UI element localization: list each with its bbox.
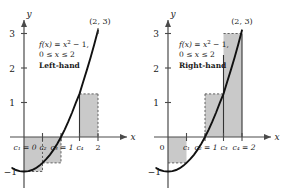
x-tick-label-c1: c₁ = 0 xyxy=(13,143,36,152)
y-axis-label: y xyxy=(25,9,32,19)
x-tick-label-c2: c₂ xyxy=(39,143,46,152)
y-tick-label-3: 3 xyxy=(153,29,159,39)
y-tick-label-2: 2 xyxy=(153,64,159,74)
x-tick-label-c3: c₃ xyxy=(220,143,227,152)
y-tick-label-2: 2 xyxy=(9,64,15,74)
y-axis-arrow xyxy=(21,20,27,27)
function-caption-line3: Left-hand xyxy=(39,61,81,70)
function-caption-line2: 0 ≤ x ≤ 2 xyxy=(39,50,75,59)
y-axis-arrow xyxy=(165,20,171,27)
x-tick-label-c4: c₄ xyxy=(76,143,83,152)
x-axis-label: x xyxy=(130,132,135,142)
x-tick-label-0: 0 xyxy=(159,143,164,152)
x-axis-arrow xyxy=(264,134,271,140)
function-caption-line3: Right-hand xyxy=(179,61,227,70)
x-axis-label: x xyxy=(274,132,279,142)
function-caption-line1: f(x) = x2 − 1, xyxy=(178,39,229,49)
left-hand-panel: 3 2 1 −1 c₁ = 0 c₂ c₃ = 1 c₄ 2 (2, 3) xyxy=(0,0,144,193)
riemann-sum-figure-pair: 3 2 1 −1 c₁ = 0 c₂ c₃ = 1 c₄ 2 (2, 3) xyxy=(0,0,288,193)
x-tick-label-2: 2 xyxy=(95,143,100,152)
y-tick-label-1: 1 xyxy=(153,98,159,108)
y-axis-label: y xyxy=(169,9,176,19)
right-hand-panel: 3 2 1 −1 0 c₁ c₂ = 1 c₃ c₄ = 2 (2, 3) x … xyxy=(144,0,288,193)
rectangle-4 xyxy=(80,94,99,137)
endpoint-annotation: (2, 3) xyxy=(89,17,111,26)
function-caption-line2: 0 ≤ x ≤ 2 xyxy=(179,50,215,59)
y-tick-label-1: 1 xyxy=(9,98,15,108)
x-tick-label-c4: c₄ = 2 xyxy=(232,143,255,152)
y-tick-label-3: 3 xyxy=(9,29,15,39)
endpoint-annotation: (2, 3) xyxy=(231,17,253,26)
function-caption-line1: f(x) = x2 − 1, xyxy=(38,39,89,49)
left-hand-plot: 3 2 1 −1 c₁ = 0 c₂ c₃ = 1 c₄ 2 (2, 3) xyxy=(0,0,144,193)
x-tick-label-c1: c₁ xyxy=(183,143,190,152)
right-hand-plot: 3 2 1 −1 0 c₁ c₂ = 1 c₃ c₄ = 2 (2, 3) x … xyxy=(144,0,288,193)
x-axis-arrow xyxy=(120,134,127,140)
